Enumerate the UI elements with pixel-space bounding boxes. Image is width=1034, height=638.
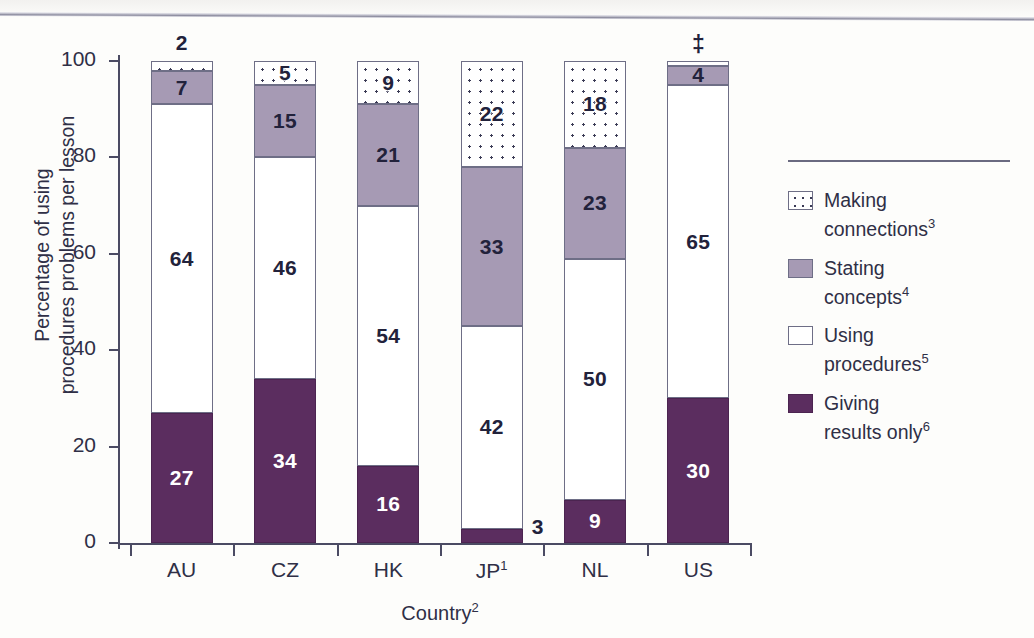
legend-item-label: Givingresults only6 (824, 391, 930, 444)
legend-label-line2: results only (824, 420, 923, 442)
legend-item-label: Statingconcepts4 (824, 256, 909, 309)
segment-giving-results-only-au: 27 (151, 413, 213, 543)
segment-giving-results-only-jp (461, 529, 523, 543)
x-axis-label-jp: JP1 (432, 558, 552, 583)
legend-label-line1: Using (824, 324, 874, 346)
legend-item-label: Usingprocedures5 (824, 323, 929, 376)
making-connections-swatch (788, 191, 813, 210)
segment-value-label: 9 (382, 71, 394, 95)
x-tick-4 (543, 545, 545, 556)
x-tick-6 (750, 545, 752, 556)
segment-making-connections-au (151, 61, 213, 71)
legend-label-line1: Making (824, 189, 887, 211)
y-tick-100 (109, 60, 118, 62)
segment-using-procedures-hk: 54 (357, 206, 419, 466)
legend-divider (788, 160, 1010, 162)
legend-label-line1: Giving (824, 392, 879, 414)
stating-concepts-swatch (788, 259, 813, 278)
segment-using-procedures-jp: 42 (461, 326, 523, 528)
legend-label-superscript: 5 (922, 351, 929, 366)
x-tick-label-text: NL (582, 558, 609, 581)
segment-using-procedures-au: 64 (151, 104, 213, 412)
bar-jp: 423322 (461, 61, 523, 543)
x-axis-title-text: Country (401, 602, 471, 624)
legend-item-using[interactable]: Usingprocedures5 (788, 323, 1018, 376)
segment-stating-concepts-cz: 15 (254, 85, 316, 157)
x-axis-label-cz: CZ (225, 558, 345, 582)
segment-using-procedures-us: 65 (667, 85, 729, 398)
y-tick-label-0: 0 (0, 529, 96, 553)
segment-using-procedures-nl: 50 (564, 259, 626, 500)
x-axis-label-hk: HK (328, 558, 448, 582)
x-tick-label-text: HK (374, 558, 403, 581)
segment-value-label: 34 (273, 449, 297, 473)
y-axis-line (118, 55, 120, 549)
x-tick-label-text: CZ (271, 558, 299, 581)
x-axis-label-nl: NL (535, 558, 655, 582)
x-tick-2 (337, 545, 339, 556)
legend-item-stating[interactable]: Statingconcepts4 (788, 256, 1018, 309)
x-axis-label-us: US (638, 558, 758, 582)
segment-value-label: 64 (170, 247, 194, 271)
segment-value-label: 30 (686, 459, 710, 483)
using-procedures-swatch (788, 326, 813, 345)
bar-hk: 1654219 (357, 61, 419, 543)
legend-label-superscript: 4 (902, 284, 909, 299)
x-tick-3 (440, 545, 442, 556)
bar-au: 27647 (151, 61, 213, 543)
segment-value-label: 23 (583, 191, 607, 215)
segment-value-label: 21 (376, 143, 400, 167)
segment-value-label: 9 (589, 509, 601, 533)
segment-value-label: 50 (583, 367, 607, 391)
x-tick-5 (647, 545, 649, 556)
segment-giving-results-only-hk: 16 (357, 466, 419, 543)
segment-giving-results-only-cz: 34 (254, 379, 316, 543)
chart-legend: Makingconnections3Statingconcepts4Usingp… (788, 160, 1018, 458)
segment-stating-concepts-jp: 33 (461, 167, 523, 326)
annotation-us: ‡ (692, 31, 705, 58)
stacked-bar-chart: 100806040200 Percentage of using procedu… (0, 0, 1034, 638)
x-tick-label-text: JP (476, 559, 501, 582)
segment-value-label: 18 (583, 92, 607, 116)
segment-making-connections-hk: 9 (357, 61, 419, 104)
plot-area: 276473446155165421942332295023183065423‡ (130, 61, 750, 543)
segment-value-label: 33 (480, 235, 504, 259)
x-tick-label-text: AU (167, 558, 196, 581)
x-axis-title: Country2 (130, 600, 750, 625)
segment-making-connections-cz: 5 (254, 61, 316, 85)
y-axis-title-line2: procedures problems per lesson (56, 116, 78, 395)
y-tick-20 (109, 446, 118, 448)
y-tick-40 (109, 349, 118, 351)
segment-stating-concepts-au: 7 (151, 71, 213, 105)
y-tick-60 (109, 253, 118, 255)
segment-making-connections-jp: 22 (461, 61, 523, 167)
segment-value-label: 27 (170, 466, 194, 490)
legend-items: Makingconnections3Statingconcepts4Usingp… (788, 188, 1018, 443)
annotation-jp: 3 (532, 515, 544, 539)
x-axis-title-superscript: 2 (471, 600, 478, 615)
y-tick-80 (109, 156, 118, 158)
x-tick-label-superscript: 1 (500, 558, 507, 573)
bar-cz: 3446155 (254, 61, 316, 543)
legend-item-giving[interactable]: Givingresults only6 (788, 391, 1018, 444)
segment-value-label: 15 (273, 109, 297, 133)
legend-label-line2: procedures (824, 353, 922, 375)
y-tick-0 (109, 542, 118, 544)
bar-nl: 9502318 (564, 61, 626, 543)
segment-making-connections-nl: 18 (564, 61, 626, 148)
segment-giving-results-only-us: 30 (667, 398, 729, 543)
legend-label-line2: concepts (824, 285, 902, 307)
legend-label-superscript: 3 (928, 216, 935, 231)
segment-value-label: 16 (376, 492, 400, 516)
legend-item-making[interactable]: Makingconnections3 (788, 188, 1018, 241)
legend-label-line2: connections (824, 218, 928, 240)
x-tick-0 (130, 545, 132, 556)
segment-value-label: 5 (279, 61, 291, 85)
x-axis-line (118, 543, 752, 545)
segment-value-label: 7 (176, 76, 188, 100)
y-axis-title: Percentage of using procedures problems … (30, 55, 80, 455)
segment-stating-concepts-us: 4 (667, 66, 729, 85)
annotation-au: 2 (176, 31, 188, 55)
segment-stating-concepts-hk: 21 (357, 104, 419, 205)
legend-label-superscript: 6 (923, 419, 930, 434)
